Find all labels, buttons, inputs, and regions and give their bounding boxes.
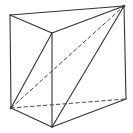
edge-AC [10, 6, 124, 15]
edge-DE [11, 108, 52, 127]
prism-canvas [0, 0, 133, 133]
edge-EC [52, 6, 124, 127]
edge-DB [11, 33, 52, 108]
edge-AD [10, 15, 11, 108]
edge-DF-hidden [11, 99, 126, 108]
prism-diagram [0, 0, 133, 133]
vertex-C [123, 5, 126, 8]
edge-DC-hidden [11, 6, 124, 108]
edge-AB [10, 15, 52, 33]
vertex-D [10, 107, 13, 110]
edge-CF [124, 6, 126, 99]
edge-EF [52, 99, 126, 127]
edge-BC [52, 6, 124, 33]
